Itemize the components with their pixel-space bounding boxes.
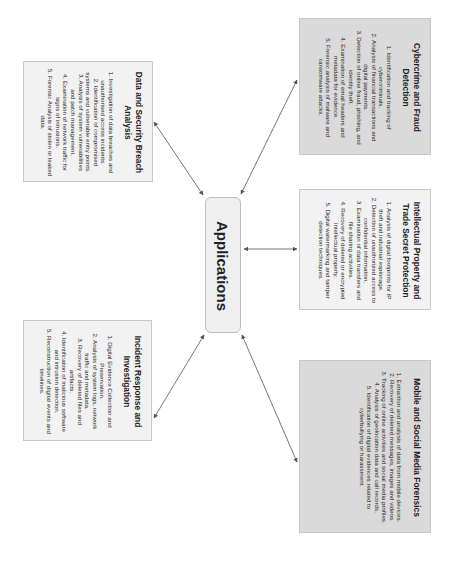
- list-item: 3. Recovery of deleted files and artifac…: [68, 327, 83, 436]
- node-title: Mobile and Social Media Forensics: [412, 367, 423, 528]
- arrow-incident-response: [154, 335, 204, 418]
- node-mobile-social: Mobile and Social Media Forensics 1. Ext…: [299, 360, 431, 533]
- list-item: 4. Recovery of deleted or encrypted inte…: [332, 196, 347, 305]
- list-item: 4. Examination of email headers and meta…: [332, 25, 347, 150]
- list-item: 4. Examination of network traffic for si…: [54, 68, 69, 177]
- node-title: Intellectual Property and Trade Secret P…: [401, 196, 422, 305]
- list-item: 1. Investigation of data breaches and un…: [100, 68, 115, 177]
- list-item: 3. Detection of online fraud, phishing, …: [347, 25, 362, 150]
- node-title: Incident Response and Investigation: [122, 327, 143, 436]
- node-data-security: Data and Security Breach Analysis 1. Inv…: [23, 61, 153, 182]
- list-item: 1. Identification and tracking of cyberc…: [378, 25, 393, 150]
- node-cybercrime: Cybercrime and Fraud Detection 1. Identi…: [299, 18, 431, 155]
- list-item: 1. Digital Evidence Collection and Prese…: [99, 327, 114, 436]
- list-item: 4. Analysis of geolocation data and call…: [373, 367, 381, 528]
- list-item: 3. Tracking of online activities and soc…: [381, 367, 389, 528]
- list-item: 3. Examination of data transfers and fil…: [347, 196, 362, 305]
- list-item: 5. Forensic Analysis of stolen or leaked…: [39, 68, 54, 177]
- list-item: 2. Analysis of system logs, network traf…: [84, 327, 99, 436]
- node-title: Data and Security Breach Analysis: [123, 68, 144, 177]
- list-item: 1. Analysis of digital footprints for IP…: [378, 196, 393, 305]
- center-label: Applications: [206, 198, 238, 334]
- list-item: 2. Identification of compromised systems…: [85, 68, 100, 177]
- list-item: 5. Identification of digital evidences r…: [358, 367, 373, 528]
- list-item: 5. Digital watermarking and tamper detec…: [317, 196, 332, 305]
- node-intellectual-property: Intellectual Property and Trade Secret P…: [299, 189, 431, 310]
- node-incident-response: Incident Response and Investigation 1. D…: [23, 320, 152, 441]
- list-item: 1. Extraction and analysis of data from …: [396, 367, 404, 528]
- list-item: 5. Forensic analysis of malware and rans…: [317, 25, 332, 150]
- list-item: 2. Recovery of deleted messages, images …: [388, 367, 396, 528]
- list-item: 5. Reconstruction of digital events and …: [38, 327, 53, 436]
- list-item: 3. Analysis of system vulnerabilities an…: [69, 68, 84, 177]
- center-node-applications: Applications: [205, 197, 241, 333]
- list-item: 2. Detection of unauthorized access to c…: [363, 196, 378, 305]
- arrow-data-security: [154, 122, 203, 195]
- list-item: 4. Identification of malicious software …: [53, 327, 68, 436]
- node-title: Cybercrime and Fraud Detection: [401, 25, 422, 150]
- arrow-mobile-social: [242, 335, 297, 462]
- list-item: 2. Analysis of financial transactions an…: [363, 25, 378, 150]
- arrow-cybercrime: [241, 80, 297, 194]
